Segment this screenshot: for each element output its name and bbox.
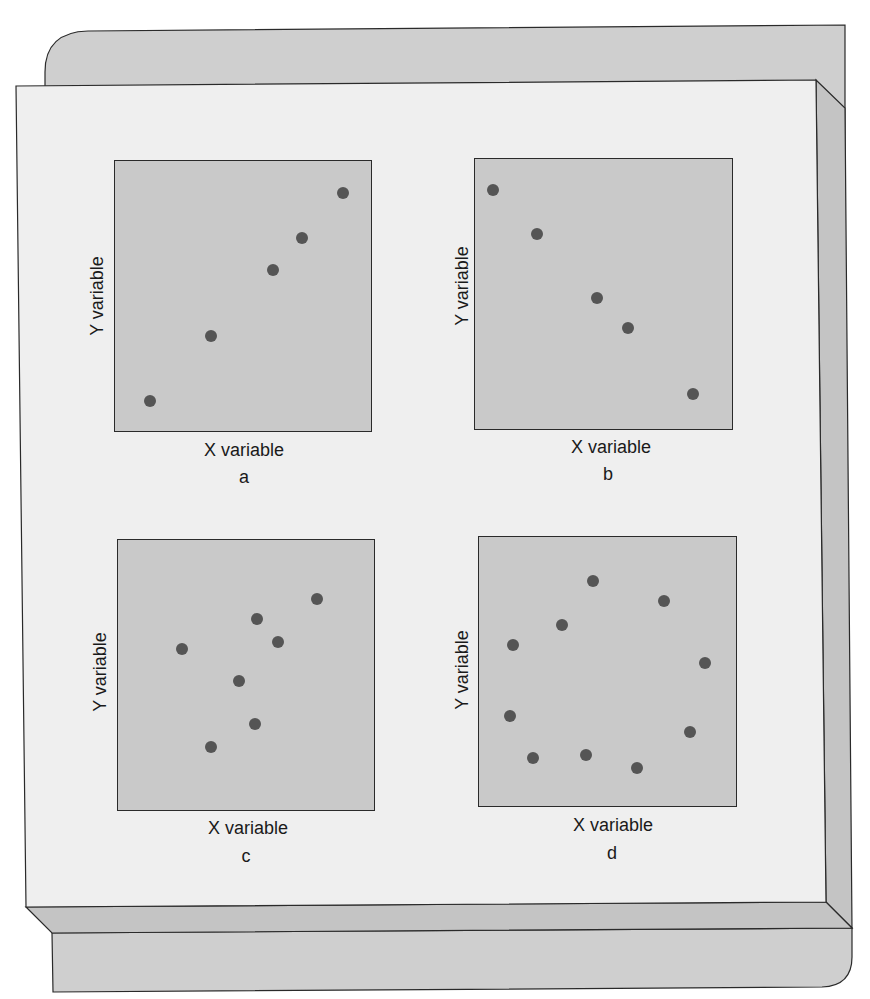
scatter-panel-b xyxy=(474,158,733,430)
data-point xyxy=(251,613,263,625)
panel-caption: a xyxy=(224,467,264,487)
data-point xyxy=(205,330,217,342)
card-frame xyxy=(0,0,870,999)
data-point xyxy=(587,575,599,587)
data-point xyxy=(531,228,543,240)
data-point xyxy=(622,322,634,334)
data-point xyxy=(487,184,499,196)
scatter-panel-d xyxy=(478,536,737,807)
data-point xyxy=(631,762,643,774)
y-axis-label: Y variable xyxy=(452,186,472,386)
x-axis-label: X variable xyxy=(144,440,344,460)
data-point xyxy=(249,718,261,730)
data-point xyxy=(507,639,519,651)
y-axis-label: Y variable xyxy=(90,572,110,772)
data-point xyxy=(527,752,539,764)
data-point xyxy=(311,593,323,605)
data-point xyxy=(144,395,156,407)
x-axis-label: X variable xyxy=(513,815,713,835)
data-point xyxy=(591,292,603,304)
data-point xyxy=(233,675,245,687)
scatter-panel-c xyxy=(117,539,375,811)
x-axis-label: X variable xyxy=(148,818,348,838)
panel-caption: d xyxy=(592,843,632,863)
data-point xyxy=(176,643,188,655)
data-point xyxy=(337,187,349,199)
data-point xyxy=(205,741,217,753)
data-point xyxy=(556,619,568,631)
panel-caption: c xyxy=(226,846,266,866)
data-point xyxy=(272,636,284,648)
data-point xyxy=(296,232,308,244)
y-axis-label: Y variable xyxy=(452,570,472,770)
data-point xyxy=(580,749,592,761)
data-point xyxy=(687,388,699,400)
y-axis-label: Y variable xyxy=(87,196,107,396)
data-point xyxy=(699,657,711,669)
panel-caption: b xyxy=(588,464,628,484)
back-card-bottom xyxy=(52,928,852,992)
data-point xyxy=(658,595,670,607)
data-point xyxy=(684,726,696,738)
scatter-panel-a xyxy=(114,160,372,432)
data-point xyxy=(504,710,516,722)
x-axis-label: X variable xyxy=(511,437,711,457)
data-point xyxy=(267,264,279,276)
